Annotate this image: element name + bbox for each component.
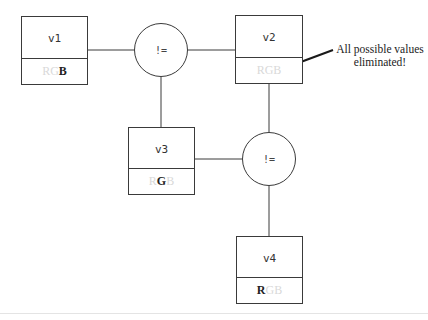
domain-value-b: B	[273, 63, 281, 78]
domain-value-b: B	[59, 64, 67, 79]
variable-label: v4	[237, 237, 302, 280]
variable-node-v3: v3 RGB	[128, 127, 195, 195]
variable-node-v1: v1 RGB	[21, 16, 88, 85]
domain-value-g: G	[265, 283, 274, 298]
variable-domain: RGB	[237, 277, 302, 303]
annotation-line-1: All possible values	[334, 43, 426, 56]
variable-domain: RGB	[22, 58, 87, 84]
domain-value-b: B	[166, 174, 174, 189]
domain-value-r: R	[42, 64, 50, 79]
variable-label: v3	[129, 128, 194, 171]
variable-domain: RGB	[236, 57, 302, 83]
page-edge-divider	[0, 313, 428, 314]
domain-value-r: R	[257, 63, 265, 78]
domain-value-r: R	[257, 283, 266, 298]
variable-node-v4: v4 RGB	[236, 236, 303, 304]
variable-node-v2: v2 RGB	[235, 15, 303, 84]
variable-label: v1	[22, 17, 87, 60]
constraint-node-c2: !=	[242, 132, 296, 186]
constraint-node-c1: !=	[134, 23, 188, 77]
variable-domain: RGB	[129, 168, 194, 194]
variable-label: v2	[236, 16, 302, 59]
domain-value-b: B	[274, 283, 282, 298]
annotation-text: All possible values eliminated!	[334, 43, 426, 69]
domain-value-g: G	[157, 174, 166, 189]
domain-value-g: G	[50, 64, 59, 79]
domain-value-g: G	[265, 63, 274, 78]
domain-value-r: R	[149, 174, 157, 189]
annotation-line-2: eliminated!	[334, 56, 426, 69]
